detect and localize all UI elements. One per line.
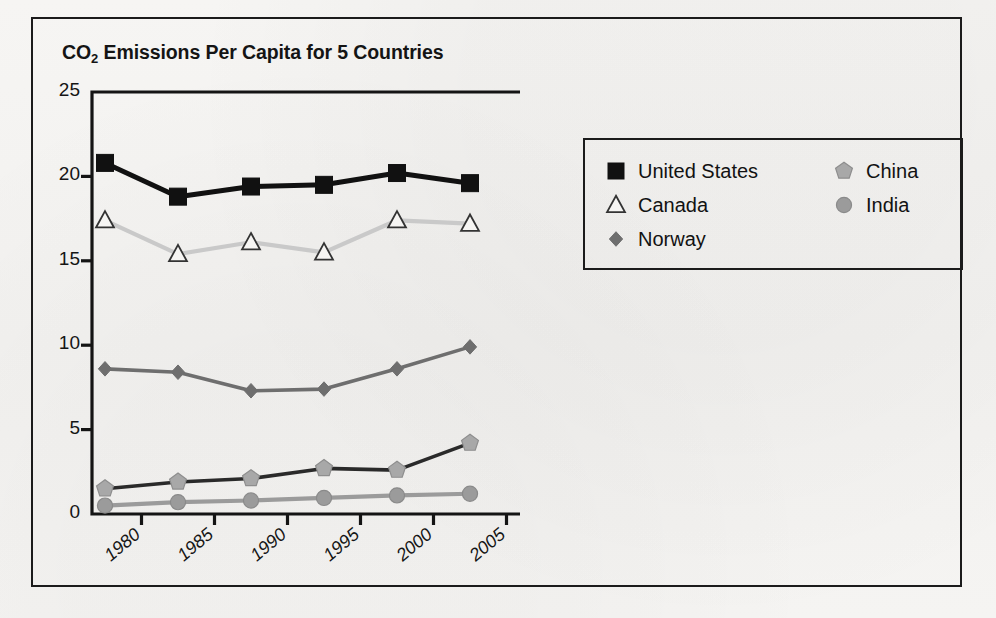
data-point [463,340,476,355]
x-tick-label: 2005 [465,524,509,566]
legend-item-norway[interactable]: Norway [605,222,758,256]
filled-pentagon-icon [833,160,855,182]
x-tick-label: 2000 [392,524,436,566]
filled-circle-icon [833,194,855,216]
data-point [316,176,333,193]
chart-title-subscript: 2 [91,51,98,66]
data-point [170,495,185,510]
data-point [316,460,333,476]
data-point [243,493,258,508]
data-point [243,178,260,195]
data-point [389,165,406,182]
data-point [316,490,331,505]
chart-title-rest: Emissions Per Capita for 5 Countries [98,41,443,63]
data-point [170,188,187,205]
series-line [105,220,470,254]
chart-legend: United StatesCanadaNorway ChinaIndia [583,138,963,270]
series-line [105,494,470,506]
data-point [170,473,187,489]
x-tick-label: 1995 [319,524,363,566]
data-point [97,480,114,496]
x-tick-label: 1980 [100,524,144,566]
legend-item-label: China [866,160,918,183]
data-point [97,498,112,513]
data-point [389,461,406,477]
legend-item-label: Canada [638,194,708,217]
series-canada [96,211,479,261]
y-axis-label: Metric Tons [0,0,3,124]
legend-item-united-states[interactable]: United States [605,154,758,188]
series-line [105,443,470,489]
series-united-states [97,154,479,205]
series-india [97,486,477,513]
data-point [97,154,114,171]
open-triangle-icon [605,194,627,216]
figure-page: CO2 Emissions Per Capita for 5 Countries… [0,0,996,618]
chart-svg [32,78,572,538]
legend-item-label: United States [638,160,758,183]
legend-item-label: Norway [638,228,706,251]
x-tick-label: 1985 [173,524,217,566]
x-axis-tick-labels: 198019851990199520002005 [92,516,532,578]
data-point [244,383,257,398]
legend-column-left: United StatesCanadaNorway [605,154,758,256]
series-line [105,163,470,197]
data-point [389,488,404,503]
data-point [317,382,330,397]
series-china [97,434,479,496]
filled-diamond-icon [605,228,627,250]
filled-square-icon [605,160,627,182]
data-point [243,470,260,486]
legend-item-label: India [866,194,909,217]
data-point [96,211,114,227]
chart-title-main: CO [62,41,91,63]
legend-item-canada[interactable]: Canada [605,188,758,222]
data-point [462,175,479,192]
legend-item-india[interactable]: India [833,188,918,222]
plot-area [92,92,512,514]
data-point [462,486,477,501]
data-point [462,434,479,450]
chart-title: CO2 Emissions Per Capita for 5 Countries [62,41,443,64]
series-line [105,347,470,391]
legend-item-china[interactable]: China [833,154,918,188]
series-norway [98,340,476,398]
chart-axes [92,92,520,514]
legend-column-right: ChinaIndia [833,154,918,222]
data-point [390,362,403,377]
data-point [98,362,111,377]
data-point [171,365,184,380]
x-tick-label: 1990 [246,524,290,566]
